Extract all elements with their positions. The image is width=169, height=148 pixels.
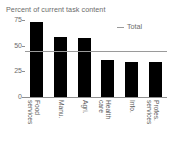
legend: Total [117,23,142,31]
chart-figure: Percent of current task content 0255075 … [0,0,169,148]
x-axis-label: Agri. [81,100,88,114]
x-axis-line [25,97,167,98]
legend-line-icon [117,27,124,28]
x-axis-label: Manu. [58,100,65,118]
bars-layer [25,20,167,97]
bar [125,62,138,97]
x-axis-label: Info. [129,100,136,113]
legend-label-total: Total [127,23,142,31]
bar [54,37,67,97]
x-axis-label: Profes. services [145,100,160,124]
total-reference-line [25,51,167,52]
bar [149,62,162,97]
y-tick-label: 50 [14,42,22,49]
bar [101,60,114,97]
x-axis-label: Health care [98,100,113,119]
bar [78,38,91,97]
x-axis-labels: Food servicesManu.Agri.Health careInfo.P… [25,99,167,148]
y-tick-label: 25 [14,67,22,74]
y-axis: 0255075 [0,0,22,148]
x-axis-label: Food services [27,100,42,124]
y-tick-label: 75 [14,16,22,23]
bar [30,22,43,97]
